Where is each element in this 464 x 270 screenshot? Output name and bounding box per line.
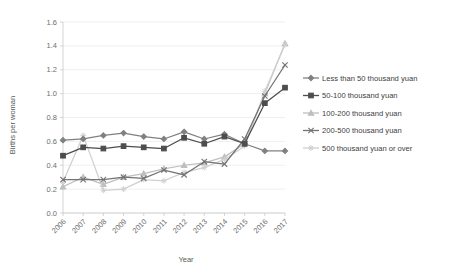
data-point-marker	[201, 165, 207, 171]
data-series-group	[60, 41, 288, 193]
data-point-marker	[141, 134, 146, 139]
line-chart: 0.00.20.40.60.81.01.21.41.6 200620072008…	[0, 0, 464, 270]
data-point-marker	[141, 145, 146, 150]
data-point-marker	[262, 148, 267, 153]
x-tick-label: 2014	[211, 217, 229, 235]
series-line	[63, 65, 285, 180]
data-point-marker	[282, 42, 288, 48]
legend-item-0[interactable]: Less than 50 thousand yuan	[303, 74, 417, 83]
y-tick-label: 1.0	[47, 89, 57, 98]
y-tick-label: 1.6	[47, 18, 57, 27]
data-point-marker	[308, 145, 314, 151]
x-tick-label: 2006	[50, 217, 68, 235]
x-tick-label: 2016	[252, 217, 270, 235]
axis-lines	[60, 22, 285, 216]
x-tick-label: 2015	[231, 217, 249, 235]
data-point-marker	[101, 146, 106, 151]
legend-label: 100-200 thousand yuan	[322, 109, 402, 118]
x-tick-label: 2010	[130, 217, 148, 235]
x-tick-label: 2013	[191, 217, 209, 235]
data-point-marker	[309, 93, 314, 98]
legend-label: 50-100 thousand yuan	[322, 91, 398, 100]
data-point-marker	[121, 186, 127, 192]
data-point-marker	[283, 85, 288, 90]
data-point-marker	[282, 148, 287, 153]
data-point-marker	[141, 171, 146, 176]
x-axis-tick-labels: 2006200720082009201020112012201320142015…	[50, 217, 290, 235]
legend-item-1[interactable]: 50-100 thousand yuan	[303, 91, 398, 100]
chart-container: 0.00.20.40.60.81.01.21.41.6 200620072008…	[0, 0, 464, 270]
x-tick-label: 2012	[171, 217, 189, 235]
legend-label: Less than 50 thousand yuan	[322, 74, 417, 83]
legend-item-2[interactable]: 100-200 thousand yuan	[303, 109, 402, 118]
y-tick-label: 0.4	[47, 161, 57, 170]
y-tick-label: 1.2	[47, 65, 57, 74]
data-point-marker	[60, 138, 65, 143]
y-axis-tick-labels: 0.00.20.40.60.81.01.21.41.6	[47, 18, 57, 218]
data-point-marker	[181, 129, 186, 134]
data-point-marker	[282, 62, 287, 67]
data-point-marker	[121, 144, 126, 149]
legend-item-3[interactable]: 200-500 thousand yuan	[303, 126, 402, 135]
y-axis-title: Births per woman	[8, 96, 17, 154]
data-point-marker	[161, 178, 167, 184]
series-line	[63, 88, 285, 156]
y-tick-label: 0.6	[47, 137, 57, 146]
data-point-marker	[222, 134, 227, 139]
x-tick-label: 2007	[70, 217, 88, 235]
gridlines	[63, 22, 285, 213]
chart-legend: Less than 50 thousand yuan50-100 thousan…	[303, 74, 417, 153]
data-point-marker	[100, 187, 106, 193]
data-point-marker	[101, 133, 106, 138]
data-point-marker	[308, 75, 313, 80]
legend-label: 200-500 thousand yuan	[322, 126, 402, 135]
data-point-marker	[202, 141, 207, 146]
data-point-marker	[263, 101, 268, 106]
x-tick-label: 2009	[110, 217, 128, 235]
data-point-marker	[242, 141, 247, 146]
data-point-marker	[161, 136, 166, 141]
data-point-marker	[182, 135, 187, 140]
x-tick-label: 2017	[272, 217, 290, 235]
x-tick-label: 2008	[90, 217, 108, 235]
x-tick-label: 2011	[151, 217, 169, 235]
data-point-marker	[121, 130, 126, 135]
y-tick-label: 0.0	[47, 209, 57, 218]
legend-label: 500 thousand yuan or over	[322, 144, 413, 153]
data-point-marker	[81, 145, 86, 150]
x-axis-title: Year	[178, 255, 194, 264]
data-point-marker	[181, 163, 186, 168]
legend-item-4[interactable]: 500 thousand yuan or over	[303, 144, 413, 153]
y-tick-label: 0.8	[47, 113, 57, 122]
y-tick-label: 1.4	[47, 41, 57, 50]
data-point-marker	[162, 146, 167, 151]
data-point-marker	[61, 153, 66, 158]
data-point-marker	[202, 136, 207, 141]
y-tick-label: 0.2	[47, 185, 57, 194]
data-point-marker	[308, 110, 313, 115]
